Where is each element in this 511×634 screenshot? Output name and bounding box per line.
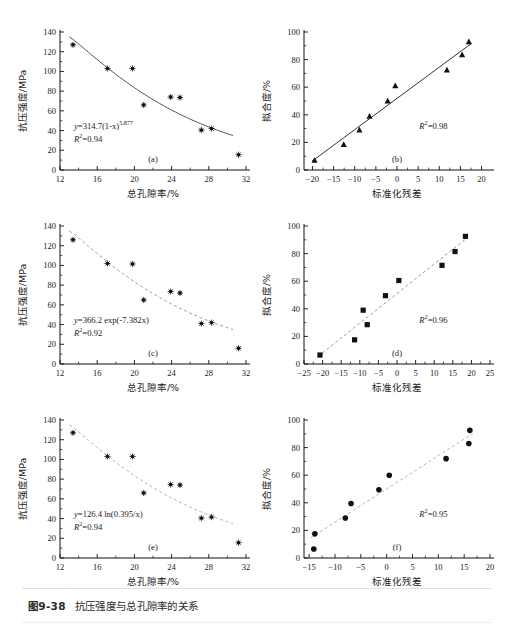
x-tick-label: 20	[486, 562, 495, 572]
panel-letter: (f)	[393, 542, 402, 552]
panel-c-plot: 121620242832020406080100120140y=366.2 ex…	[14, 212, 254, 410]
fit-equation: y=126.4 ln(0.395/x)	[73, 509, 143, 519]
y-tick-label: 100	[43, 260, 56, 270]
x-tick-label: 24	[167, 174, 176, 184]
data-point	[177, 482, 183, 488]
x-tick-label: −5	[356, 562, 365, 572]
caption-rule-bottom	[22, 622, 492, 623]
panel-letter: (b)	[392, 154, 402, 164]
x-tick-label: −25	[297, 368, 310, 378]
data-point	[141, 490, 147, 496]
y-tick-label: 60	[48, 494, 57, 504]
y-tick-label: 60	[48, 300, 57, 310]
data-point	[168, 288, 174, 294]
x-tick-label: −5	[374, 368, 383, 378]
x-axis-title: 标准化残差	[372, 576, 422, 587]
data-point	[463, 234, 468, 239]
data-point	[348, 501, 354, 507]
data-point	[343, 515, 349, 521]
x-tick-label: 20	[477, 174, 486, 184]
x-tick-label: 12	[56, 368, 65, 378]
data-point	[104, 65, 110, 71]
fit-line	[312, 43, 471, 161]
data-point	[383, 293, 388, 298]
data-point	[443, 456, 449, 462]
y-tick-label: 120	[43, 435, 56, 445]
data-point	[466, 441, 472, 447]
data-point	[208, 126, 214, 132]
y-tick-label: 100	[287, 221, 300, 231]
y-axis-title: 抗压强度/MPa	[17, 458, 28, 521]
data-point	[392, 83, 398, 89]
x-tick-label: −15	[303, 562, 316, 572]
x-tick-label: 20	[130, 368, 139, 378]
y-tick-label: 80	[48, 474, 57, 484]
data-point	[352, 337, 357, 342]
data-point	[198, 515, 204, 521]
panel-f: −15−10−505101520020406080100R2=0.95(f)标准…	[258, 406, 498, 604]
y-tick-label: 80	[292, 249, 301, 259]
data-point	[376, 487, 382, 493]
y-tick-label: 40	[292, 498, 301, 508]
data-point	[235, 540, 241, 546]
data-point	[386, 472, 392, 478]
x-tick-label: 25	[486, 368, 495, 378]
x-axis-title: 总孔隙率/%	[127, 188, 179, 199]
x-tick-label: 32	[242, 562, 251, 572]
x-tick-label: −15	[335, 368, 348, 378]
x-tick-label: 15	[456, 174, 465, 184]
x-tick-label: 20	[467, 368, 476, 378]
data-point	[208, 320, 214, 326]
y-axis-title: 抗压强度/MPa	[17, 264, 28, 327]
panel-f-plot: −15−10−505101520020406080100R2=0.95(f)标准…	[258, 406, 498, 604]
x-tick-label: 28	[205, 368, 214, 378]
data-point	[341, 141, 347, 147]
data-point	[444, 67, 450, 73]
y-tick-label: 140	[43, 415, 56, 425]
y-axis-title: 拟合度/%	[261, 468, 272, 510]
fit-line	[311, 433, 473, 537]
data-point	[439, 263, 444, 268]
x-tick-label: 0	[395, 368, 399, 378]
y-tick-label: 80	[292, 55, 301, 65]
panel-c: 121620242832020406080100120140y=366.2 ex…	[14, 212, 254, 410]
panel-a-plot: 121620242832020406080100120140y=314.7(1-…	[14, 18, 254, 216]
data-point	[198, 320, 204, 326]
x-tick-label: −10	[353, 368, 366, 378]
x-tick-label: 32	[242, 174, 251, 184]
data-point	[198, 127, 204, 133]
data-point	[129, 453, 135, 459]
data-point	[168, 94, 174, 100]
data-point	[177, 290, 183, 296]
caption-text: 抗压强度与总孔隙率的关系	[75, 600, 199, 612]
data-point	[141, 102, 147, 108]
panel-d-plot: −25−20−15−10−50510152025020406080100R2=0…	[258, 212, 498, 410]
x-tick-label: 0	[385, 562, 389, 572]
y-tick-label: 120	[43, 241, 56, 251]
y-tick-label: 80	[48, 280, 57, 290]
y-tick-label: 140	[43, 221, 56, 231]
data-point	[70, 430, 76, 436]
fit-equation: y=314.7(1-x)5.877	[73, 119, 133, 131]
y-tick-label: 0	[52, 359, 56, 369]
x-tick-label: 15	[449, 368, 458, 378]
x-tick-label: 10	[435, 174, 444, 184]
y-tick-label: 0	[296, 165, 300, 175]
data-point	[396, 278, 401, 283]
x-axis-title: 总孔隙率/%	[127, 576, 179, 587]
data-point	[177, 94, 183, 100]
data-point	[317, 352, 322, 357]
panel-b-plot: −20−15−10−505101520020406080100R2=0.98(b…	[258, 18, 498, 216]
y-tick-label: 40	[48, 126, 57, 136]
panel-letter: (a)	[148, 154, 158, 164]
panel-e-plot: 121620242832020406080100120140y=126.4 ln…	[14, 406, 254, 604]
y-tick-label: 60	[48, 106, 57, 116]
y-axis-title: 拟合度/%	[261, 80, 272, 122]
x-tick-label: 16	[93, 368, 102, 378]
data-point	[466, 38, 472, 44]
y-tick-label: 80	[292, 443, 301, 453]
y-tick-label: 40	[48, 514, 57, 524]
x-tick-label: 5	[410, 562, 414, 572]
y-tick-label: 60	[292, 470, 301, 480]
caption-number: 图9-38	[28, 600, 66, 612]
